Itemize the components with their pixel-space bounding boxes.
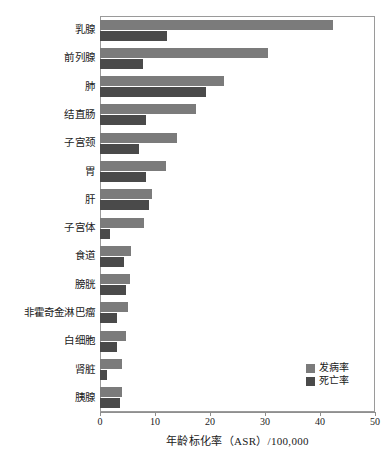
category-label: 胃 xyxy=(5,166,100,178)
bar-mortality xyxy=(100,144,139,154)
legend-item-incidence: 发病率 xyxy=(306,362,368,374)
bar-group xyxy=(100,299,375,327)
category-label: 肾脏 xyxy=(5,364,100,376)
category-label: 乳腺 xyxy=(5,24,100,36)
bar-group xyxy=(100,214,375,242)
bar-mortality xyxy=(100,342,117,352)
category-label: 前列腺 xyxy=(5,52,100,64)
bar-mortality xyxy=(100,31,167,41)
bar-mortality xyxy=(100,59,143,69)
category-label: 胰腺 xyxy=(5,392,100,404)
bar-mortality xyxy=(100,229,110,239)
bar-mortality xyxy=(100,313,117,323)
bar-incidence xyxy=(100,20,333,30)
bar-mortality xyxy=(100,285,126,295)
bar-chart: 乳腺前列腺肺结直肠子宫颈胃肝子宫体食道膀胱非霍奇金淋巴瘤白细胞肾脏胰腺 0102… xyxy=(0,0,390,461)
bar-incidence xyxy=(100,302,128,312)
chart-legend: 发病率 死亡率 xyxy=(303,359,371,391)
bar-mortality xyxy=(100,257,124,267)
bar-group xyxy=(100,157,375,185)
category-axis-labels: 乳腺前列腺肺结直肠子宫颈胃肝子宫体食道膀胱非霍奇金淋巴瘤白细胞肾脏胰腺 xyxy=(0,16,100,412)
x-axis-line xyxy=(100,412,375,413)
bar-incidence xyxy=(100,133,177,143)
bar-mortality xyxy=(100,172,146,182)
bar-incidence xyxy=(100,387,122,397)
bar-mortality xyxy=(100,370,107,380)
bar-incidence xyxy=(100,274,130,284)
bar-incidence xyxy=(100,246,131,256)
x-tick-label: 40 xyxy=(315,416,325,427)
bar-mortality xyxy=(100,115,146,125)
bar-mortality xyxy=(100,398,120,408)
category-label: 膀胱 xyxy=(5,279,100,291)
bar-group xyxy=(100,242,375,270)
x-tick-label: 20 xyxy=(205,416,215,427)
bar-mortality xyxy=(100,87,206,97)
category-label: 肺 xyxy=(5,81,100,93)
x-axis-title: 年龄标化率（ASR）/100,000 xyxy=(100,432,375,448)
legend-label-mortality: 死亡率 xyxy=(319,375,349,387)
bar-group xyxy=(100,73,375,101)
bar-group xyxy=(100,271,375,299)
category-label: 非霍奇金淋巴瘤 xyxy=(5,307,100,319)
bar-group xyxy=(100,16,375,44)
x-tick-label: 50 xyxy=(370,416,380,427)
bar-group xyxy=(100,44,375,72)
category-label: 白细胞 xyxy=(5,335,100,347)
category-label: 食道 xyxy=(5,250,100,262)
legend-label-incidence: 发病率 xyxy=(319,362,349,374)
bar-incidence xyxy=(100,218,144,228)
category-label: 肝 xyxy=(5,194,100,206)
bar-incidence xyxy=(100,331,126,341)
x-tick-label: 0 xyxy=(98,416,103,427)
bar-group xyxy=(100,101,375,129)
x-tick-label: 30 xyxy=(260,416,270,427)
legend-swatch-mortality xyxy=(306,377,315,386)
category-label: 结直肠 xyxy=(5,109,100,121)
bar-mortality xyxy=(100,200,149,210)
bar-group xyxy=(100,327,375,355)
x-tick-label: 10 xyxy=(150,416,160,427)
category-label: 子宫颈 xyxy=(5,137,100,149)
legend-swatch-incidence xyxy=(306,364,315,373)
bar-group xyxy=(100,129,375,157)
bar-incidence xyxy=(100,76,224,86)
bar-incidence xyxy=(100,189,152,199)
bar-incidence xyxy=(100,48,268,58)
bar-incidence xyxy=(100,359,122,369)
bar-incidence xyxy=(100,161,166,171)
legend-item-mortality: 死亡率 xyxy=(306,375,368,387)
category-label: 子宫体 xyxy=(5,222,100,234)
bar-incidence xyxy=(100,104,196,114)
bar-group xyxy=(100,186,375,214)
